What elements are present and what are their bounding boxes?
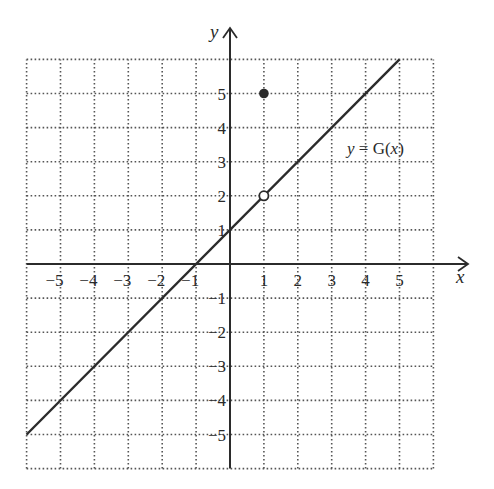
y-tick-label: −1 [208, 289, 226, 308]
x-tick-label: 5 [395, 271, 404, 290]
function-label: y = G(x) [345, 139, 404, 158]
y-tick-label: 5 [218, 85, 227, 104]
x-tick-label: −3 [113, 271, 131, 290]
x-tick-label: −2 [147, 271, 165, 290]
y-tick-label: 4 [218, 119, 227, 138]
x-tick-label: −4 [79, 271, 98, 290]
function-line [27, 59, 400, 434]
open-circle-point [259, 191, 268, 200]
filled-dot-point [259, 89, 269, 99]
y-tick-label: 2 [218, 187, 227, 206]
graph-of-G: −5−4−3−2−112345−5−4−3−2−112345 x y y = G… [0, 0, 494, 489]
y-tick-label: −5 [208, 426, 226, 445]
x-tick-label: 3 [327, 271, 336, 290]
y-tick-label: −3 [208, 357, 226, 376]
x-axis-label: x [455, 266, 465, 287]
line-y-equals-g-of-x [27, 59, 400, 434]
x-tick-label: −5 [45, 271, 63, 290]
y-tick-label: −4 [208, 391, 227, 410]
y-tick-label: 3 [218, 153, 227, 172]
x-tick-label: 4 [361, 271, 370, 290]
y-axis-label: y [208, 21, 219, 42]
y-tick-label: −2 [208, 323, 226, 342]
x-tick-label: 1 [260, 271, 269, 290]
x-tick-label: −1 [181, 271, 199, 290]
x-tick-label: 2 [294, 271, 303, 290]
